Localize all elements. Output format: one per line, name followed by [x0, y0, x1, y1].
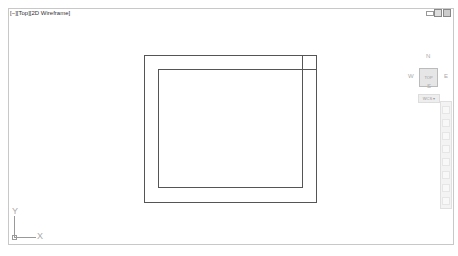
drawing-canvas[interactable]: [0, 0, 458, 256]
ucs-icon: [13, 216, 37, 240]
outer-rectangle: [145, 56, 317, 203]
inner-rectangle: [159, 70, 303, 188]
ucs-x-label: X: [37, 231, 43, 241]
ucs-y-label: Y: [12, 206, 18, 216]
